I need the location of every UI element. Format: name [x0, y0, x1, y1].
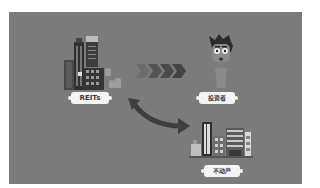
city-buildings-coins-icon — [62, 34, 124, 92]
real-estate-buildings-icon — [189, 120, 253, 158]
investor-label: 投资者 — [199, 92, 235, 104]
real-estate-label: 不动产 — [204, 165, 240, 177]
investor-character-icon — [205, 34, 237, 90]
reits-label: REITs — [71, 92, 109, 104]
two-way-curved-arrow-icon — [126, 96, 192, 134]
chevron-arrows-icon — [136, 64, 188, 78]
